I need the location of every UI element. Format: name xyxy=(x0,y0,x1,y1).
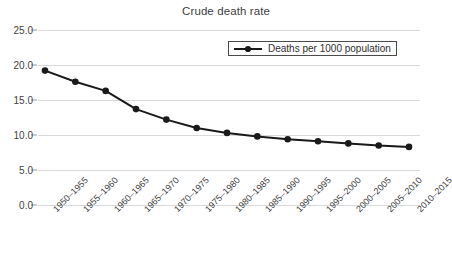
x-axis-tick-label: 1955–1960 xyxy=(81,207,88,214)
series-line-deaths-per-1000-population xyxy=(38,30,420,205)
x-axis-tick-label: 1975–1980 xyxy=(203,207,210,214)
x-axis-tick-label: 1980–1985 xyxy=(233,207,240,214)
data-point-marker xyxy=(72,79,79,86)
chart-container: Crude death rate 0.05.010.015.020.025.0 … xyxy=(0,0,452,272)
chart-legend: Deaths per 1000 population xyxy=(228,41,397,56)
data-point-marker xyxy=(375,142,382,149)
x-axis-tick-label: 2000–2005 xyxy=(354,207,361,214)
x-axis-tick-label: 1995–2000 xyxy=(324,207,331,214)
legend-line-marker-icon xyxy=(233,44,263,54)
plot-area: 0.05.010.015.020.025.0 xyxy=(38,30,420,205)
x-axis-tick-label: 1985–1990 xyxy=(263,207,270,214)
data-point-marker xyxy=(254,133,261,140)
legend-label-deaths-per-1000-population: Deaths per 1000 population xyxy=(268,43,391,54)
data-point-marker xyxy=(345,140,352,147)
x-axis-tick-label: 1960–1965 xyxy=(112,207,119,214)
x-axis-tick-label: 1950–1955 xyxy=(51,207,58,214)
chart-title: Crude death rate xyxy=(0,5,452,17)
data-point-marker xyxy=(133,106,140,113)
y-axis-tick-label: 25.0 xyxy=(14,25,33,36)
x-axis-tick-label: 1990–1995 xyxy=(294,207,301,214)
y-axis-tick-label: 20.0 xyxy=(14,60,33,71)
data-point-marker xyxy=(406,144,413,151)
x-axis-tick-label: 1970–1975 xyxy=(172,207,179,214)
data-point-marker xyxy=(315,138,322,145)
y-axis-tick-label: 15.0 xyxy=(14,95,33,106)
data-point-marker xyxy=(284,136,291,143)
data-point-marker xyxy=(102,88,109,95)
data-point-marker xyxy=(42,67,49,74)
x-axis-labels: 1950–19551955–19601960–19651965–19701970… xyxy=(38,207,420,269)
y-axis-tick-label: 0.0 xyxy=(19,200,33,211)
data-point-marker xyxy=(224,130,231,137)
x-axis-tick-label: 1965–1970 xyxy=(142,207,149,214)
x-axis-tick-label: 2010–2015 xyxy=(415,207,422,214)
data-point-marker xyxy=(193,125,200,132)
data-point-marker xyxy=(163,116,170,123)
y-axis-tick-label: 10.0 xyxy=(14,130,33,141)
x-axis-tick-label: 2005–2010 xyxy=(385,207,392,214)
y-axis-tick-label: 5.0 xyxy=(19,165,33,176)
